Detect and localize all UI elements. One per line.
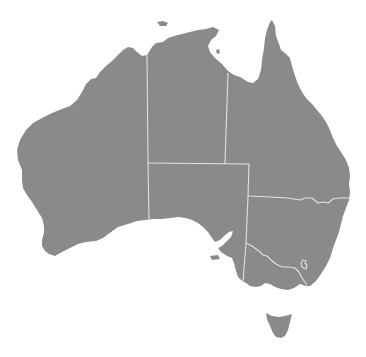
region-mainland xyxy=(17,20,350,290)
kangaroo-island xyxy=(210,255,220,260)
region-tasmania xyxy=(266,313,292,338)
australia-map: Australia Western Australia Northern Ter… xyxy=(0,0,366,357)
map-canvas xyxy=(0,0,366,357)
tiwi-islands xyxy=(157,21,168,26)
groote-island xyxy=(216,49,220,54)
